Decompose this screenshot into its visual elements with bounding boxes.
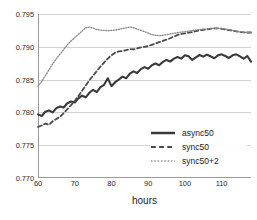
x-tick-label: 90: [144, 179, 152, 188]
y-tick-label: 0.795: [16, 10, 34, 19]
legend-label: async50: [176, 128, 214, 138]
legend-item-sync50plus2[interactable]: sync50+2: [150, 154, 247, 168]
y-axis-tick-labels: 0.7700.7750.7800.7850.7900.795: [0, 0, 34, 220]
series-line-sync50: [38, 28, 251, 126]
x-axis-title: hours: [38, 195, 251, 206]
legend-item-async50[interactable]: async50: [150, 126, 247, 140]
x-tick-label: 80: [107, 179, 115, 188]
legend-item-sync50[interactable]: sync50: [150, 140, 247, 154]
y-tick-label: 0.785: [16, 75, 34, 84]
y-tick-label: 0.770: [16, 174, 34, 183]
series-line-sync50plus2: [38, 27, 251, 86]
chart-legend: async50sync50sync50+2: [150, 124, 247, 170]
x-tick-label: 70: [71, 179, 79, 188]
legend-swatch-solid-icon: [150, 128, 176, 138]
x-tick-label: 110: [216, 179, 228, 188]
x-tick-label: 100: [179, 179, 191, 188]
legend-label: sync50+2: [176, 156, 219, 166]
legend-label: sync50: [176, 142, 209, 152]
y-tick-label: 0.780: [16, 108, 34, 117]
y-tick-label: 0.775: [16, 141, 34, 150]
x-axis-tick-labels: 60708090100110: [38, 179, 251, 193]
legend-swatch-dotted-icon: [150, 156, 176, 166]
legend-swatch-dashed-icon: [150, 142, 176, 152]
y-tick-label: 0.790: [16, 42, 34, 51]
x-tick-label: 60: [34, 179, 42, 188]
chart-container: 0.7700.7750.7800.7850.7900.795 607080901…: [0, 0, 257, 220]
